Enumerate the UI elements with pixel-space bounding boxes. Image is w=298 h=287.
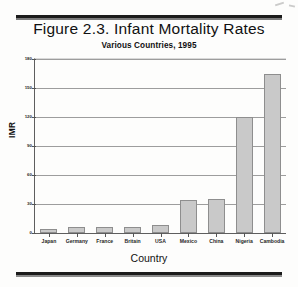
bar[interactable]: [180, 200, 197, 233]
x-axis-tick-label: Nigeria: [236, 239, 253, 244]
y-axis-tick: [32, 233, 36, 234]
x-axis-tick: [77, 233, 78, 237]
bar-slot: Japan: [35, 59, 63, 233]
bar-slot: Germany: [63, 59, 91, 233]
figure-title: Figure 2.3. Infant Mortality Rates: [0, 20, 298, 38]
bar-slot: USA: [147, 59, 175, 233]
divider-top: [16, 15, 282, 18]
scan-artifact-icon: [275, 2, 284, 7]
bar[interactable]: [236, 117, 253, 233]
x-axis-tick-label: Britain: [125, 239, 141, 244]
x-axis-tick: [49, 233, 50, 237]
x-axis-tick: [272, 233, 273, 237]
y-axis-tick-label: 60: [27, 173, 32, 177]
x-axis-title: Country: [0, 252, 298, 264]
bar-group: JapanGermanyFranceBritainUSAMexicoChinaN…: [35, 59, 286, 233]
bar-slot: France: [91, 59, 119, 233]
bar-chart: 0306090120150180 JapanGermanyFranceBrita…: [34, 58, 286, 234]
figure-subtitle: Various Countries, 1995: [0, 41, 298, 50]
x-axis-tick: [161, 233, 162, 237]
x-axis-tick-label: Cambodia: [260, 239, 285, 244]
x-axis-tick-label: China: [209, 239, 223, 244]
x-axis-tick-label: USA: [155, 239, 166, 244]
y-axis-tick-label: 120: [25, 115, 32, 119]
y-axis-tick-label: 90: [27, 144, 32, 148]
bar-slot: Britain: [119, 59, 147, 233]
x-axis-tick: [105, 233, 106, 237]
x-axis-tick-label: Mexico: [180, 239, 197, 244]
x-axis-tick-label: Japan: [42, 239, 57, 244]
bar-slot: Cambodia: [258, 59, 286, 233]
y-axis-tick-label: 150: [25, 86, 32, 90]
bar-slot: Mexico: [174, 59, 202, 233]
x-axis-tick-label: Germany: [66, 239, 88, 244]
y-axis-tick-label: 30: [27, 202, 32, 206]
bar-slot: Nigeria: [230, 59, 258, 233]
y-axis-title: IMR: [7, 121, 17, 138]
y-axis-tick-label: 180: [25, 57, 32, 61]
x-axis-tick-label: France: [96, 239, 113, 244]
bar[interactable]: [152, 225, 169, 233]
x-axis-tick: [216, 233, 217, 237]
scan-artifact-icon: [289, 4, 295, 7]
x-axis-tick: [244, 233, 245, 237]
y-axis-tick-label: 0: [30, 231, 32, 235]
x-axis-tick: [133, 233, 134, 237]
x-axis-tick: [188, 233, 189, 237]
bar[interactable]: [264, 74, 281, 233]
bar[interactable]: [208, 199, 225, 233]
divider-bottom: [16, 272, 282, 275]
bar-slot: China: [202, 59, 230, 233]
figure-page: Figure 2.3. Infant Mortality Rates Vario…: [0, 0, 298, 287]
